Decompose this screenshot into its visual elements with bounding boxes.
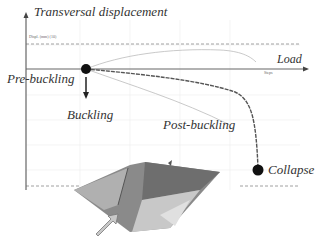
y-axis-label: Transversal displacement bbox=[34, 5, 167, 18]
deformed-plate-image bbox=[74, 160, 220, 232]
x-axis-arrow-icon bbox=[303, 67, 309, 72]
x-axis-label: Load bbox=[277, 53, 302, 65]
secondary-upper-curve bbox=[86, 50, 256, 69]
collapse-label: Collapse bbox=[268, 163, 314, 176]
small-x-caption: Steps bbox=[264, 71, 273, 75]
small-y-caption: Displ. (mm) (10) bbox=[29, 35, 56, 39]
buckling-label: Buckling bbox=[67, 108, 113, 121]
collapse-point-marker bbox=[253, 165, 264, 176]
pre-buckling-label: Pre-buckling bbox=[7, 72, 74, 85]
buckling-arrow-icon bbox=[83, 92, 89, 99]
load-direction-arrow-icon bbox=[96, 214, 118, 236]
buckling-point-marker bbox=[81, 64, 91, 74]
post-buckling-label: Post-buckling bbox=[163, 118, 235, 131]
y-axis-arrow-icon bbox=[24, 12, 29, 18]
